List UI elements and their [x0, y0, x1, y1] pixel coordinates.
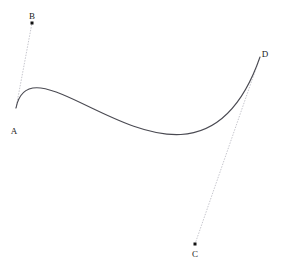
bezier-figure: A B C D: [0, 0, 281, 266]
control-point-marker-b: [31, 22, 34, 25]
bezier-canvas: [0, 0, 281, 266]
point-label-d: D: [259, 50, 271, 59]
point-label-b: B: [26, 12, 38, 21]
control-point-marker-c: [194, 243, 197, 246]
point-label-c: C: [189, 250, 201, 259]
figure-background: [0, 0, 281, 266]
point-label-a: A: [8, 127, 20, 136]
